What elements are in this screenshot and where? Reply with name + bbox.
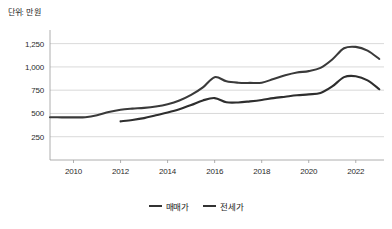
x-axis: [50, 30, 384, 163]
x-axis-tick-label: 2020: [300, 167, 318, 176]
chart-plot-area: 2505007501,0001,250 20102012201420162018…: [0, 0, 392, 229]
y-axis-tick-label: 1,250: [25, 40, 45, 49]
x-axis-tick-label: 2012: [112, 167, 130, 176]
x-axis-tick-label: 2018: [253, 167, 271, 176]
x-axis-tick-label: 2014: [159, 167, 177, 176]
x-axis-tick-label: 2010: [65, 167, 83, 176]
y-axis-tick-labels: 2505007501,0001,250: [25, 40, 45, 142]
line-swatch-icon: [203, 205, 216, 207]
price-trend-chart: 단위: 만 원 2505007501,0001,250 201020122014…: [0, 0, 392, 229]
legend-item-jeonsega[interactable]: 전세가: [203, 200, 243, 212]
x-axis-tick-labels: 2010201220142016201820202022: [65, 167, 365, 176]
x-axis-tick-label: 2016: [206, 167, 224, 176]
y-axis-tick-label: 250: [31, 133, 44, 142]
series-line-maemaega: [50, 47, 379, 118]
legend-item-maemaega[interactable]: 매매가: [149, 200, 189, 212]
line-swatch-icon: [149, 205, 162, 207]
y-axis-tick-label: 500: [31, 109, 44, 118]
y-axis-tick-label: 1,000: [25, 63, 45, 72]
legend-label: 전세가: [220, 200, 243, 212]
data-series: [50, 47, 379, 122]
x-axis-tick-label: 2022: [347, 167, 365, 176]
chart-legend: 매매가 전세가: [0, 200, 392, 212]
y-axis-tick-label: 750: [31, 86, 44, 95]
legend-label: 매매가: [166, 200, 189, 212]
